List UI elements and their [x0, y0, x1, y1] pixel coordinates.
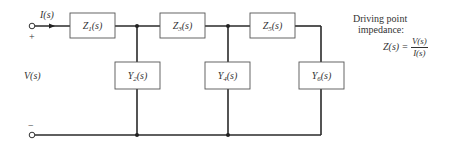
note-line2: impedance:	[353, 24, 428, 35]
current-arrow-icon	[49, 24, 55, 29]
formula-fraction: V(s) I(s)	[411, 36, 428, 59]
voltage-label: V(s)	[24, 70, 41, 82]
minus-sign: −	[28, 120, 34, 131]
junction-dot	[226, 133, 230, 137]
junction-dot	[135, 24, 139, 28]
formula-lhs: Z(s) =	[383, 41, 408, 52]
formula-denominator: I(s)	[411, 48, 428, 59]
impedance-formula: Z(s) = V(s) I(s)	[353, 36, 428, 59]
driving-point-note: Driving point impedance: Z(s) = V(s) I(s…	[353, 13, 428, 59]
junction-dot	[226, 24, 230, 28]
current-label: I(s)	[39, 9, 55, 21]
input-terminal-top	[29, 23, 35, 29]
formula-numerator: V(s)	[411, 36, 428, 48]
note-line1: Driving point	[353, 13, 428, 24]
plus-sign: +	[29, 31, 35, 42]
junction-dot	[135, 133, 139, 137]
input-terminal-bottom	[29, 132, 35, 138]
